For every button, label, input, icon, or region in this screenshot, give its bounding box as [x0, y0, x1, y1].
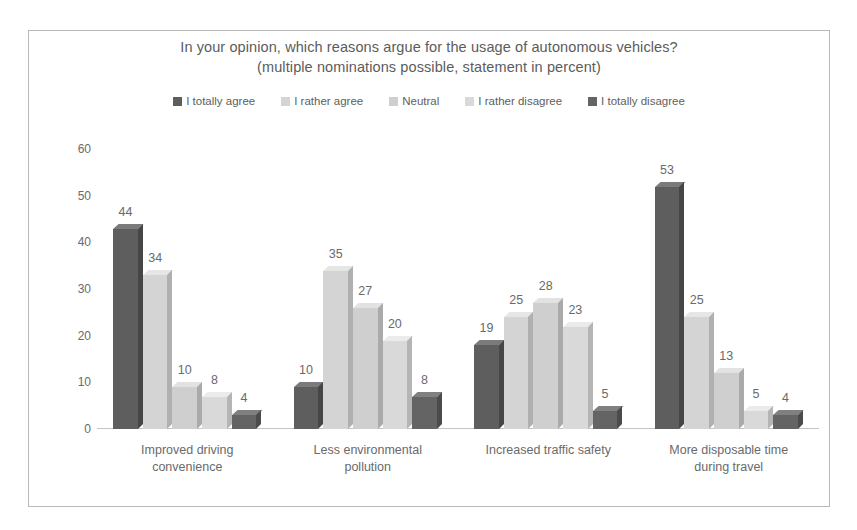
bar[interactable]: 25 — [684, 312, 709, 429]
bar-slot: 4 — [773, 149, 803, 429]
bar-value-label: 53 — [655, 163, 680, 177]
bar[interactable]: 23 — [563, 322, 588, 429]
bar-front-face — [533, 303, 558, 429]
bar-group: 192528235 — [458, 149, 639, 429]
legend-swatch-icon — [281, 97, 290, 106]
chart-title: In your opinion, which reasons argue for… — [29, 37, 829, 77]
bar[interactable]: 35 — [323, 266, 348, 429]
bar[interactable]: 13 — [714, 368, 739, 429]
bar[interactable]: 10 — [172, 382, 197, 429]
legend-swatch-icon — [465, 97, 474, 106]
bar-value-label: 19 — [474, 321, 499, 335]
bar-slot: 53 — [655, 149, 685, 429]
y-axis-tick-label: 50 — [78, 189, 91, 203]
bar-value-label: 23 — [563, 303, 588, 317]
bar-slot: 5 — [744, 149, 774, 429]
legend-swatch-icon — [173, 97, 182, 106]
legend-swatch-icon — [588, 97, 597, 106]
bar[interactable]: 20 — [383, 336, 408, 429]
bar[interactable]: 8 — [412, 392, 437, 429]
bar-slot: 10 — [172, 149, 202, 429]
bar[interactable]: 8 — [202, 392, 227, 429]
bar-side-face — [437, 392, 442, 429]
bar[interactable]: 5 — [744, 406, 769, 429]
bar-front-face — [563, 327, 588, 429]
y-axis: 6050403020100 — [67, 149, 95, 429]
bar[interactable]: 44 — [113, 224, 138, 429]
bar[interactable]: 10 — [294, 382, 319, 429]
category-label-line: Less environmental — [282, 442, 455, 459]
bar-front-face — [714, 373, 739, 429]
chart-container: In your opinion, which reasons argue for… — [28, 30, 830, 507]
bar-side-face — [256, 410, 261, 429]
category-label: Improved drivingconvenience — [97, 442, 278, 476]
legend-label: I totally agree — [186, 95, 255, 107]
bar-slot: 13 — [714, 149, 744, 429]
bar-value-label: 28 — [533, 279, 558, 293]
bar-groups: 4434108410352720819252823553251354 — [97, 149, 819, 429]
bar[interactable]: 34 — [143, 270, 168, 429]
bar-front-face — [684, 317, 709, 429]
bar-value-label: 35 — [323, 247, 348, 261]
bar-front-face — [474, 345, 499, 429]
category-label-line: pollution — [282, 459, 455, 476]
bar[interactable]: 19 — [474, 340, 499, 429]
bar-value-label: 4 — [232, 391, 257, 405]
bar-slot: 19 — [474, 149, 504, 429]
bar[interactable]: 5 — [593, 406, 618, 429]
bar-front-face — [773, 415, 798, 429]
bar-value-label: 10 — [172, 363, 197, 377]
y-axis-tick-label: 60 — [78, 142, 91, 156]
bar-front-face — [323, 271, 348, 429]
bar-front-face — [593, 411, 618, 429]
bar[interactable]: 27 — [353, 303, 378, 429]
y-axis-tick-label: 40 — [78, 235, 91, 249]
y-axis-tick-label: 20 — [78, 329, 91, 343]
y-axis-tick-label: 0 — [84, 422, 91, 436]
chart-title-line1: In your opinion, which reasons argue for… — [180, 39, 677, 55]
category-label-line: during travel — [643, 459, 816, 476]
bar[interactable]: 4 — [232, 410, 257, 429]
bar-front-face — [294, 387, 319, 429]
bar-slot: 23 — [563, 149, 593, 429]
category-label-line: Increased traffic safety — [462, 442, 635, 459]
bar-group-bars: 192528235 — [474, 149, 622, 429]
legend-item[interactable]: I totally disagree — [588, 95, 685, 107]
legend-label: I totally disagree — [601, 95, 685, 107]
legend-item[interactable]: I rather disagree — [465, 95, 562, 107]
bar-group: 103527208 — [278, 149, 459, 429]
bar-slot: 4 — [232, 149, 262, 429]
bar-side-face — [617, 406, 622, 429]
category-label: Increased traffic safety — [458, 442, 639, 476]
bar-slot: 34 — [143, 149, 173, 429]
bar-front-face — [172, 387, 197, 429]
bar-front-face — [143, 275, 168, 429]
bar[interactable]: 53 — [655, 182, 680, 429]
bar-slot: 25 — [504, 149, 534, 429]
bar-group: 53251354 — [639, 149, 820, 429]
bar[interactable]: 28 — [533, 298, 558, 429]
chart-subtitle: (multiple nominations possible, statemen… — [29, 57, 829, 77]
bar-value-label: 5 — [593, 387, 618, 401]
bar-value-label: 8 — [412, 373, 437, 387]
bar-value-label: 8 — [202, 373, 227, 387]
bar-group-bars: 44341084 — [113, 149, 261, 429]
legend-item[interactable]: I totally agree — [173, 95, 255, 107]
bar-value-label: 20 — [383, 317, 408, 331]
bar-group-bars: 103527208 — [294, 149, 442, 429]
bar[interactable]: 25 — [504, 312, 529, 429]
category-label-line: Improved driving — [101, 442, 274, 459]
category-label-line: convenience — [101, 459, 274, 476]
bar[interactable]: 4 — [773, 410, 798, 429]
bar-value-label: 34 — [143, 251, 168, 265]
legend-item[interactable]: Neutral — [389, 95, 439, 107]
bar-value-label: 5 — [744, 387, 769, 401]
bar-value-label: 10 — [294, 363, 319, 377]
category-label: More disposable timeduring travel — [639, 442, 820, 476]
category-label: Less environmentalpollution — [278, 442, 459, 476]
legend-item[interactable]: I rather agree — [281, 95, 363, 107]
bar-value-label: 13 — [714, 349, 739, 363]
category-label-line: More disposable time — [643, 442, 816, 459]
bar-value-label: 4 — [773, 391, 798, 405]
bar-front-face — [202, 397, 227, 429]
